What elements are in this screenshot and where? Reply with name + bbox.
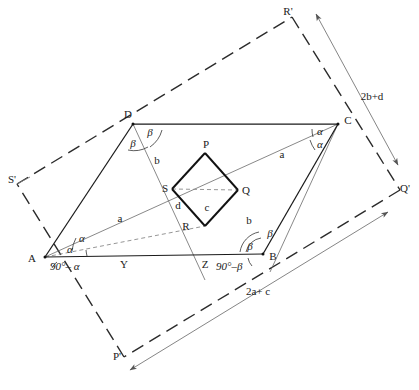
- diagram-canvas: A B C D P Q R S Y Z S' R' Q' P' a a b b …: [0, 0, 419, 390]
- arc-alpha-C-lower: [310, 140, 315, 150]
- vertex-label-B: B: [269, 250, 276, 262]
- vertex-label-S: S: [162, 182, 168, 194]
- angle-label-complement-A: 90°– α: [50, 260, 80, 272]
- side-label-c-inner: c: [205, 201, 210, 213]
- segment-S-P: [172, 153, 205, 189]
- vertex-label-Q-prime: Q': [400, 182, 410, 194]
- helper-line-S-Q: [172, 189, 238, 190]
- dimension-lines: [17, 14, 398, 370]
- vertex-label-P-prime: P': [113, 350, 121, 362]
- arc-alpha-A-lower: [86, 250, 87, 256]
- side-label-a-right: a: [280, 148, 285, 160]
- side-label-a-left: a: [118, 212, 123, 224]
- vertex-label-C: C: [344, 114, 351, 126]
- construction-line-C-Bext: [270, 124, 338, 272]
- inner-helper-lines: [45, 189, 238, 257]
- angle-label-alpha-A-lower: α: [67, 243, 73, 255]
- dimension-label-vertical: 2b+d: [361, 90, 384, 102]
- vertex-label-Q: Q: [242, 184, 250, 196]
- dimension-line-vertical: [316, 14, 398, 165]
- dimension-label-horizontal: 2a+ c: [246, 285, 270, 297]
- vertex-label-A: A: [28, 252, 36, 264]
- angle-label-alpha-C-upper: α: [317, 125, 323, 137]
- geometry-diagram: A B C D P Q R S Y Z S' R' Q' P' a a b b …: [0, 0, 419, 390]
- angle-label-beta-B-lower: β: [246, 240, 253, 252]
- vertex-label-Z: Z: [202, 258, 209, 270]
- angle-label-complement-B: 90°–β: [216, 260, 243, 272]
- side-label-b-upper: b: [154, 154, 160, 166]
- vertex-label-D: D: [124, 108, 132, 120]
- angle-label-beta-D-right: β: [146, 126, 153, 138]
- vertex-marker-B: [262, 253, 265, 256]
- vertex-label-S-prime: S': [8, 173, 16, 185]
- dashed-edge-qprime-pprime: [124, 190, 400, 357]
- angle-label-beta-B-upper: β: [266, 227, 273, 239]
- vertex-label-R-prime: R': [283, 5, 292, 17]
- vertex-label-R: R: [182, 220, 190, 232]
- angle-label-alpha-A-upper: α: [79, 232, 85, 244]
- vertex-marker-C: [337, 123, 340, 126]
- vertex-marker-A: [44, 256, 47, 259]
- side-label-b-lower: b: [246, 214, 252, 226]
- arc-complement-B: [248, 258, 252, 266]
- angle-label-alpha-C-lower: α: [317, 138, 323, 150]
- dimension-tick-sprime: [17, 177, 30, 184]
- angle-arcs: [52, 129, 315, 268]
- construction-line-D-R: [133, 124, 205, 280]
- vertex-label-Y: Y: [120, 258, 128, 270]
- dashed-edge-rprime-qprime: [292, 17, 400, 190]
- side-label-d-inner: d: [175, 199, 181, 211]
- segment-Q-R: [205, 190, 238, 226]
- outer-dashed-rectangle: [17, 17, 400, 357]
- vertex-marker-D: [132, 123, 135, 126]
- segment-A-B: [45, 254, 263, 257]
- vertex-label-P: P: [203, 138, 209, 150]
- angle-label-beta-D-left: β: [129, 137, 136, 149]
